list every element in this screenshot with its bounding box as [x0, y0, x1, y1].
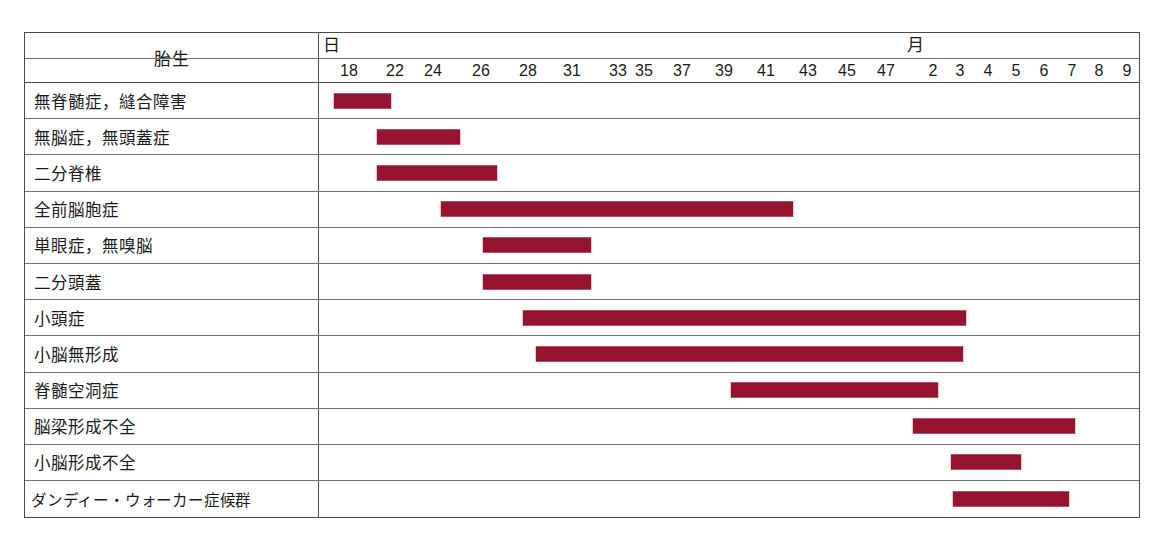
- row-label: 二分脊椎: [25, 155, 319, 190]
- day-tick-45: 45: [838, 60, 856, 81]
- day-tick-26: 26: [472, 60, 490, 81]
- timeline-lane: [319, 300, 1139, 335]
- row-label: 脊髄空洞症: [25, 373, 319, 408]
- day-tick-39: 39: [715, 60, 733, 81]
- day-tick-28: 28: [519, 60, 537, 81]
- month-unit-label: 月: [907, 35, 924, 56]
- table-row: 脳梁形成不全: [25, 409, 1139, 445]
- timeline-bar: [951, 455, 1021, 470]
- day-tick-35: 35: [635, 60, 653, 81]
- day-tick-33: 33: [609, 60, 627, 81]
- timeline-bar: [523, 310, 966, 325]
- timeline-lane: [319, 119, 1139, 154]
- timeline-lane: [319, 336, 1139, 371]
- month-tick-8: 8: [1095, 60, 1104, 81]
- table-row: ダンディー・ウォーカー症候群: [25, 481, 1139, 517]
- timeline-lane: [319, 228, 1139, 263]
- timeline-lane: [319, 192, 1139, 227]
- timeline-bar: [536, 346, 963, 361]
- timeline-lane: [319, 264, 1139, 299]
- timeline-lane: [319, 445, 1139, 480]
- month-tick-2: 2: [929, 60, 938, 81]
- table-row: 小脳形成不全: [25, 445, 1139, 481]
- timeline-bar: [913, 419, 1075, 434]
- table-row: 無脳症，無頭蓋症: [25, 119, 1139, 155]
- timeline-lane: [319, 481, 1139, 517]
- timeline-lane: [319, 409, 1139, 444]
- day-tick-43: 43: [799, 60, 817, 81]
- gestational-timing-chart: 胎生 日 月 182224262831333537394143454723456…: [24, 32, 1140, 518]
- month-tick-9: 9: [1123, 60, 1132, 81]
- timeline-bar: [334, 93, 391, 108]
- day-tick-31: 31: [563, 60, 581, 81]
- timeline-lane: [319, 155, 1139, 190]
- unit-label-row: 日 月: [25, 33, 1139, 59]
- month-tick-6: 6: [1040, 60, 1049, 81]
- table-row: 二分脊椎: [25, 155, 1139, 191]
- row-label: ダンディー・ウォーカー症候群: [25, 481, 319, 517]
- table-row: 全前脳胞症: [25, 192, 1139, 228]
- timeline-bar: [953, 492, 1069, 507]
- month-tick-5: 5: [1012, 60, 1021, 81]
- month-tick-7: 7: [1068, 60, 1077, 81]
- timeline-bar: [377, 165, 497, 180]
- month-tick-3: 3: [956, 60, 965, 81]
- row-label: 全前脳胞症: [25, 192, 319, 227]
- timeline-bar: [483, 274, 591, 289]
- day-tick-24: 24: [424, 60, 442, 81]
- day-tick-47: 47: [877, 60, 895, 81]
- table-row: 小頭症: [25, 300, 1139, 336]
- timeline-lane: [319, 83, 1139, 118]
- day-tick-41: 41: [757, 60, 775, 81]
- axis-tick-row: 182224262831333537394143454723456789: [25, 59, 1139, 82]
- timeline-bar: [731, 383, 938, 398]
- day-tick-37: 37: [673, 60, 691, 81]
- timeline-bar: [377, 129, 460, 144]
- table-row: 小脳無形成: [25, 336, 1139, 372]
- month-tick-4: 4: [984, 60, 993, 81]
- row-label: 小脳無形成: [25, 336, 319, 371]
- row-label: 無脊髄症，縫合障害: [25, 83, 319, 118]
- table-row: 単眼症，無嗅脳: [25, 228, 1139, 264]
- chart-header: 胎生 日 月 182224262831333537394143454723456…: [25, 33, 1139, 83]
- row-label: 二分頭蓋: [25, 264, 319, 299]
- row-label: 小脳形成不全: [25, 445, 319, 480]
- row-label: 脳梁形成不全: [25, 409, 319, 444]
- timeline-lane: [319, 373, 1139, 408]
- timeline-bar: [483, 238, 591, 253]
- row-label: 小頭症: [25, 300, 319, 335]
- day-tick-18: 18: [340, 60, 358, 81]
- day-tick-22: 22: [386, 60, 404, 81]
- row-label: 無脳症，無頭蓋症: [25, 119, 319, 154]
- day-unit-label: 日: [323, 35, 340, 56]
- table-row: 無脊髄症，縫合障害: [25, 83, 1139, 119]
- table-row: 二分頭蓋: [25, 264, 1139, 300]
- chart-body: 無脊髄症，縫合障害無脳症，無頭蓋症二分脊椎全前脳胞症単眼症，無嗅脳二分頭蓋小頭症…: [25, 83, 1139, 517]
- table-row: 脊髄空洞症: [25, 373, 1139, 409]
- row-label: 単眼症，無嗅脳: [25, 228, 319, 263]
- timeline-bar: [441, 202, 793, 217]
